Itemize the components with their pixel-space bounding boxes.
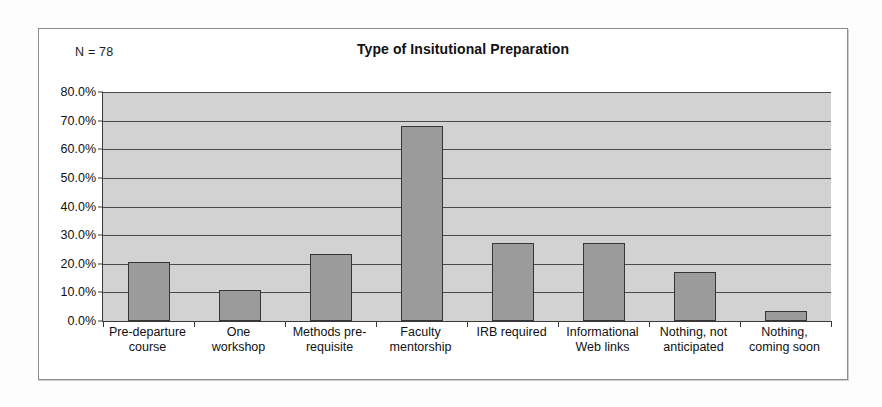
y-axis-tick-label: 40.0% — [61, 200, 96, 214]
bar-slot — [103, 92, 194, 321]
x-axis-label-line: IRB required — [467, 325, 556, 340]
x-axis-label-line: anticipated — [649, 340, 738, 355]
x-axis-label-line: Nothing, — [740, 325, 829, 340]
x-axis-label-line: Informational — [558, 325, 647, 340]
bars-layer — [103, 92, 831, 321]
x-axis-label: Nothing, notanticipated — [648, 325, 739, 355]
x-axis-label-line: Web links — [558, 340, 647, 355]
x-axis-label-line: Nothing, not — [649, 325, 738, 340]
bar-slot — [376, 92, 467, 321]
x-axis-label: Methods pre-requisite — [284, 325, 375, 355]
plot-area: 80.0%70.0%60.0%50.0%40.0%30.0%20.0%10.0%… — [102, 92, 831, 322]
x-axis-label: Nothing,coming soon — [739, 325, 830, 355]
y-axis-tick-label: 60.0% — [61, 142, 96, 156]
bar[interactable] — [310, 254, 352, 321]
x-axis-label-line: Methods pre- — [285, 325, 374, 340]
bar[interactable] — [492, 243, 534, 321]
y-axis-tick-label: 30.0% — [61, 228, 96, 242]
x-axis-label-line: course — [103, 340, 192, 355]
x-axis-labels: Pre-departurecourseOneworkshopMethods pr… — [102, 325, 830, 355]
y-axis-tick-label: 20.0% — [61, 257, 96, 271]
x-axis-label: InformationalWeb links — [557, 325, 648, 355]
x-axis-label-line: Faculty — [376, 325, 465, 340]
y-axis-tick-label: 70.0% — [61, 114, 96, 128]
x-axis-label-line: One — [194, 325, 283, 340]
bar[interactable] — [674, 272, 716, 321]
chart-title: Type of Insitutional Preparation — [39, 41, 847, 57]
bar-slot — [194, 92, 285, 321]
x-axis-label: IRB required — [466, 325, 557, 355]
x-axis-label-line: coming soon — [740, 340, 829, 355]
y-axis-tick-label: 50.0% — [61, 171, 96, 185]
bar-slot — [740, 92, 831, 321]
chart-frame: N = 78 Type of Insitutional Preparation … — [38, 28, 848, 380]
x-axis-label-line: mentorship — [376, 340, 465, 355]
bar-slot — [467, 92, 558, 321]
y-axis-tick-label: 0.0% — [68, 314, 97, 328]
bar[interactable] — [219, 290, 261, 321]
bar-slot — [285, 92, 376, 321]
x-axis-tick-mark — [831, 321, 832, 327]
x-axis-label: Facultymentorship — [375, 325, 466, 355]
bar-slot — [649, 92, 740, 321]
x-axis-label-line: Pre-departure — [103, 325, 192, 340]
bar[interactable] — [128, 262, 170, 321]
x-axis-label: Oneworkshop — [193, 325, 284, 355]
bar[interactable] — [765, 311, 807, 321]
x-axis-label: Pre-departurecourse — [102, 325, 193, 355]
y-axis-tick-label: 80.0% — [61, 85, 96, 99]
y-axis-tick-label: 10.0% — [61, 285, 96, 299]
bar[interactable] — [401, 126, 443, 321]
bar[interactable] — [583, 243, 625, 321]
x-axis-label-line: workshop — [194, 340, 283, 355]
x-axis-label-line: requisite — [285, 340, 374, 355]
bar-slot — [558, 92, 649, 321]
